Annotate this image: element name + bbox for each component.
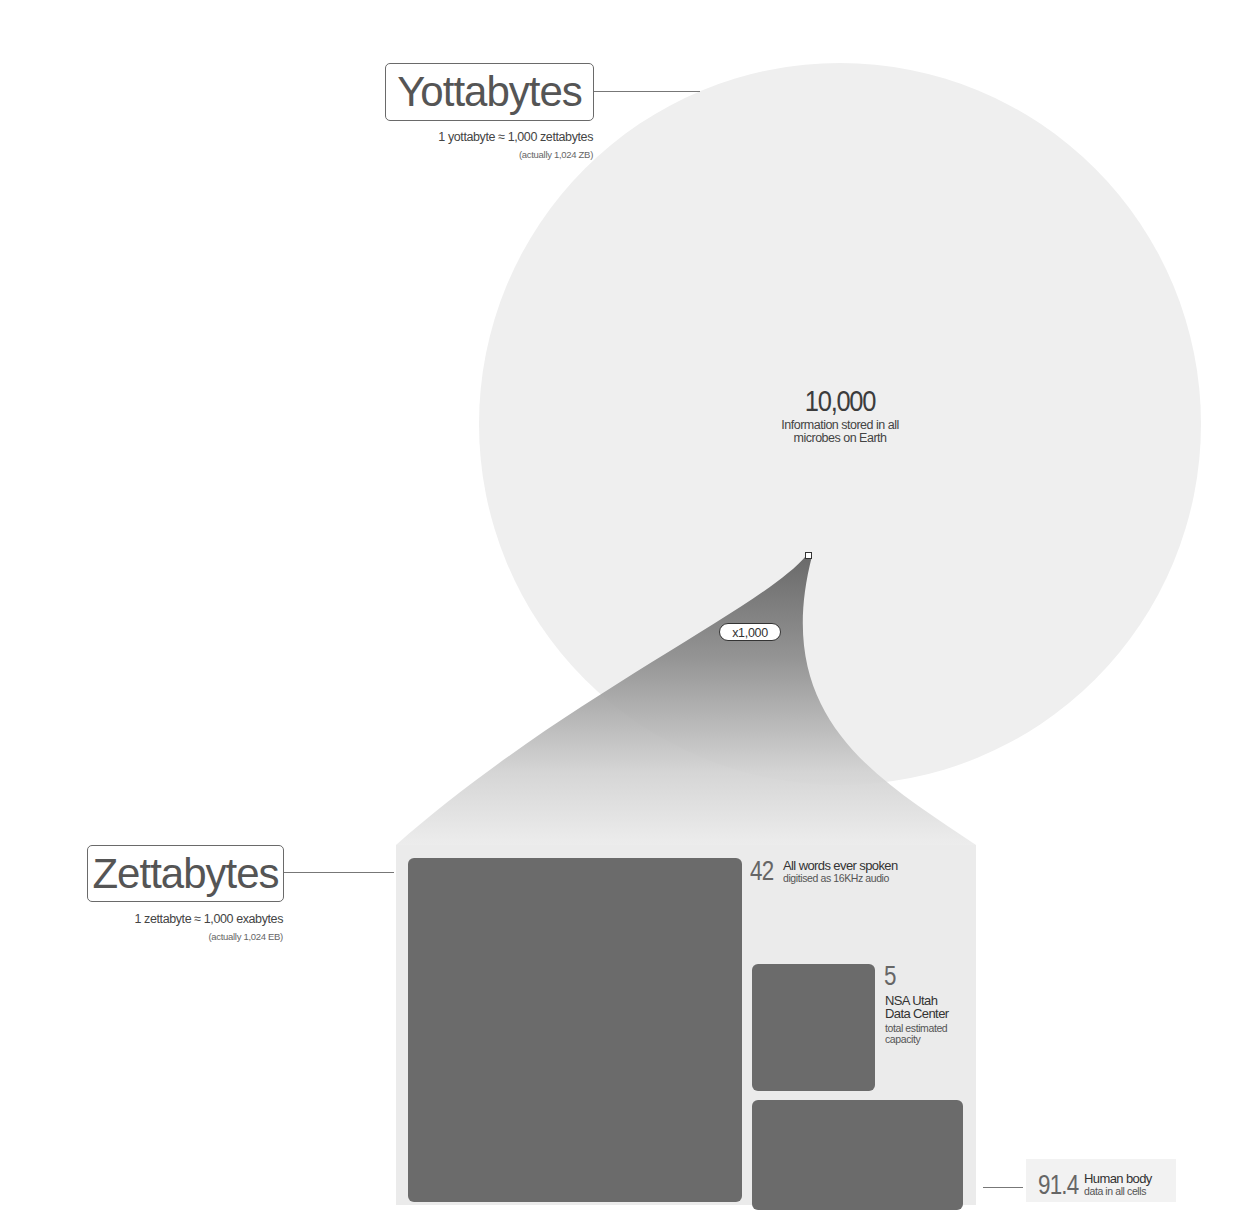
human-body-leader-line [983,1187,1023,1188]
zettabytes-leader-line [284,872,394,873]
microbes-description-line2: microbes on Earth [740,432,940,445]
words-spoken-title: All words ever spoken [783,859,898,872]
multiplier-badge: x1,000 [719,623,781,641]
nsa-utah-title-line2: Data Center [885,1007,965,1020]
words-spoken-value: 42 [750,855,773,887]
block-nsa-utah [752,964,875,1091]
block-all-words-spoken [408,858,742,1202]
block-human-body [752,1100,963,1210]
zettabytes-note: (actually 1,024 EB) [208,931,283,942]
yottabytes-leader-line [594,91,700,92]
zettabytes-definition: 1 zettabyte ≈ 1,000 exabytes [134,912,283,926]
human-body-description: data in all cells [1084,1186,1146,1197]
zettabyte-scale-marker [805,552,812,559]
nsa-utah-description: total estimated capacity [885,1023,965,1045]
nsa-utah-description-line2: capacity [885,1034,965,1045]
zettabytes-title: Zettabytes [87,845,284,902]
words-spoken-description: digitised as 16KHz audio [783,873,889,884]
yottabytes-note: (actually 1,024 ZB) [519,149,593,160]
human-body-title: Human body [1084,1172,1152,1185]
microbes-description: Information stored in all microbes on Ea… [740,419,940,445]
yottabytes-definition: 1 yottabyte ≈ 1,000 zettabytes [438,130,593,144]
human-body-value: 91.4 [1038,1169,1078,1201]
nsa-utah-value: 5 [884,960,896,992]
nsa-utah-title: NSA Utah Data Center [885,994,965,1020]
yottabytes-title: Yottabytes [385,63,594,121]
microbes-value: 10,000 [755,384,925,418]
